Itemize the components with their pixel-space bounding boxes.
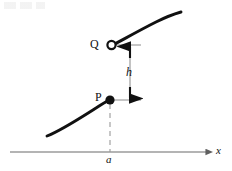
label-point-q: Q (90, 38, 99, 50)
closed-point-p (105, 95, 114, 104)
lower-branch-curve (47, 100, 109, 136)
discontinuity-diagram-svg (0, 0, 232, 171)
upper-branch-curve (115, 12, 182, 44)
open-point-q (107, 41, 115, 49)
figure-canvas: Q P h a x (0, 0, 232, 171)
label-axis-x: x (216, 145, 221, 156)
label-point-p: P (95, 91, 102, 103)
label-x-tick-a: a (106, 154, 112, 165)
label-gap-h: h (126, 66, 132, 78)
